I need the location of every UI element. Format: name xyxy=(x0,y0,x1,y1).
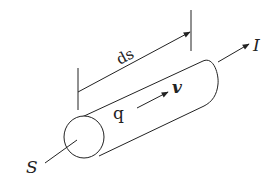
current-label: I xyxy=(252,35,260,55)
cylinder-end-cap xyxy=(203,60,218,106)
cylinder-top-edge xyxy=(82,61,203,117)
velocity-label: v xyxy=(172,77,183,97)
current-element-diagram: ds q v I S xyxy=(0,0,280,176)
velocity-arrow xyxy=(137,92,168,108)
current-arrow xyxy=(218,44,249,62)
cross-section-label: S xyxy=(26,157,38,176)
charge-label: q xyxy=(113,103,124,123)
cylinder xyxy=(64,60,218,158)
ds-label: ds xyxy=(113,45,137,69)
cross-section-circle xyxy=(64,116,104,158)
